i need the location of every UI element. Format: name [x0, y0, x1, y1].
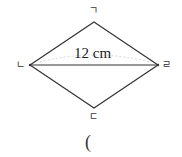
vertex-right-label: ㄹ [162, 60, 171, 70]
answer-parenthesis: ( [85, 133, 91, 151]
rhombus-diagram [0, 0, 182, 157]
diagonal-length-label: 12 cm [74, 46, 111, 61]
vertex-top-label: ㄱ [89, 6, 98, 16]
vertex-left-label: ㄴ [16, 60, 25, 70]
vertex-bottom-label: ㄷ [89, 112, 98, 122]
